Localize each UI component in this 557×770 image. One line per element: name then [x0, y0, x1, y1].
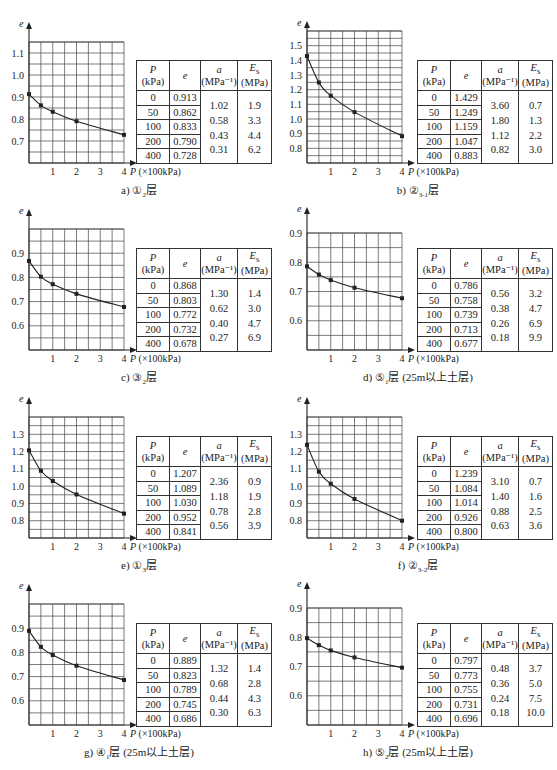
data-point-marker [400, 519, 404, 523]
cell-modulus-list: 1.43.04.76.9 [238, 279, 272, 352]
cell-void-ratio: 0.731 [451, 697, 482, 712]
cell-pressure: 200 [418, 322, 451, 337]
x-tick-label: 3 [376, 166, 381, 177]
y-tick-label: 1.2 [290, 84, 303, 95]
cell-void-ratio: 0.790 [170, 134, 201, 149]
header-void-ratio: e [170, 624, 201, 654]
cell-void-ratio: 1.047 [451, 134, 482, 149]
y-axis-label: e [19, 205, 24, 216]
panel-caption-e: e) ①3层 [49, 556, 229, 574]
cell-compressibility-list: 2.361.180.780.56 [201, 467, 238, 540]
cell-void-ratio: 1.159 [451, 120, 482, 135]
y-tick-label: 1.3 [12, 429, 25, 440]
cell-modulus-list: 1.93.34.46.2 [238, 91, 272, 164]
cell-modulus-list: 1.42.84.36.3 [238, 654, 272, 727]
cell-void-ratio: 1.014 [451, 496, 482, 511]
header-void-ratio: e [170, 249, 201, 279]
y-tick-label: 0.9 [290, 498, 303, 509]
x-tick-label: 1 [328, 166, 333, 177]
x-tick-label: 3 [98, 541, 103, 552]
compression-table-h: P(kPa)ea(MPa⁻¹)Es(MPa)00.7970.480.360.24… [417, 623, 553, 727]
data-point-marker [317, 80, 321, 84]
x-tick-label: 1 [50, 541, 55, 552]
cell-void-ratio: 0.745 [170, 697, 201, 712]
cell-modulus-list: 0.71.62.53.6 [519, 467, 553, 540]
x-tick-label: 3 [98, 353, 103, 364]
cell-compressibility-list: 0.480.360.240.18 [482, 654, 519, 727]
cell-compressibility-list: 0.560.380.260.18 [482, 279, 519, 352]
cell-void-ratio: 0.803 [170, 293, 201, 308]
header-void-ratio: e [451, 249, 482, 279]
y-tick-label: 0.9 [12, 498, 25, 509]
cell-pressure: 100 [418, 308, 451, 323]
data-point-marker [122, 133, 126, 137]
data-point-marker [317, 273, 321, 277]
cell-modulus-list: 3.24.76.99.9 [519, 279, 553, 352]
data-point-marker [353, 110, 357, 114]
header-pressure: P(kPa) [418, 249, 451, 279]
panel-caption-d: d) ⑤1层 (25m以上土层) [328, 368, 508, 386]
cell-pressure: 100 [137, 308, 170, 323]
x-tick-label: 2 [352, 541, 357, 552]
y-tick-label: 0.8 [290, 257, 303, 268]
cell-pressure: 200 [137, 134, 170, 149]
y-tick-label: 1.0 [290, 114, 303, 125]
y-axis-arrow-icon [26, 584, 32, 591]
data-point-marker [51, 282, 55, 286]
cell-pressure: 200 [137, 697, 170, 712]
cell-pressure: 400 [418, 712, 451, 727]
cell-pressure: 100 [137, 496, 170, 511]
panel-caption-f: f) ②3-2层 [328, 556, 508, 574]
y-tick-label: 0.8 [290, 143, 303, 154]
cell-pressure: 100 [418, 496, 451, 511]
cell-void-ratio: 0.739 [451, 308, 482, 323]
y-axis-arrow-icon [26, 22, 32, 29]
cell-pressure: 400 [418, 337, 451, 352]
y-tick-label: 1.4 [290, 55, 303, 66]
x-tick-label: 4 [400, 541, 405, 552]
table-header-row: P(kPa)ea(MPa⁻¹)Es(MPa) [418, 249, 553, 279]
y-tick-label: 0.7 [12, 296, 25, 307]
table-header-row: P(kPa)ea(MPa⁻¹)Es(MPa) [137, 437, 272, 467]
y-tick-label: 0.9 [290, 603, 303, 614]
table-row: 01.2072.361.180.780.560.91.92.83.9 [137, 467, 272, 482]
compression-table-e: P(kPa)ea(MPa⁻¹)Es(MPa)01.2072.361.180.78… [136, 436, 272, 540]
x-tick-label: 2 [352, 166, 357, 177]
cell-void-ratio: 0.800 [451, 525, 482, 540]
data-point-marker [329, 94, 333, 98]
header-pressure: P(kPa) [137, 61, 170, 91]
header-pressure: P(kPa) [137, 624, 170, 654]
header-compression-modulus: Es(MPa) [238, 249, 272, 279]
cell-void-ratio: 0.952 [170, 510, 201, 525]
data-point-marker [27, 448, 31, 452]
cell-pressure: 400 [418, 525, 451, 540]
table-row: 00.8681.300.620.400.271.43.04.76.9 [137, 279, 272, 294]
cell-compressibility-list: 1.020.580.430.31 [201, 91, 238, 164]
data-point-marker [75, 119, 79, 123]
header-void-ratio: e [451, 61, 482, 91]
compression-table-f: P(kPa)ea(MPa⁻¹)Es(MPa)01.2393.101.400.88… [417, 436, 553, 540]
cell-void-ratio: 0.732 [170, 322, 201, 337]
data-point-marker [51, 479, 55, 483]
cell-void-ratio: 0.758 [451, 293, 482, 308]
table-header-row: P(kPa)ea(MPa⁻¹)Es(MPa) [137, 61, 272, 91]
cell-pressure: 400 [418, 149, 451, 164]
header-void-ratio: e [451, 437, 482, 467]
x-tick-label: 4 [400, 166, 405, 177]
data-point-marker [51, 110, 55, 114]
y-tick-label: 0.9 [290, 228, 303, 239]
cell-void-ratio: 0.786 [451, 279, 482, 294]
y-tick-label: 0.6 [12, 320, 25, 331]
y-tick-label: 0.6 [12, 695, 25, 706]
y-tick-label: 0.8 [12, 114, 25, 125]
y-tick-label: 0.9 [12, 92, 25, 103]
cell-void-ratio: 0.883 [451, 149, 482, 164]
cell-pressure: 50 [137, 293, 170, 308]
header-void-ratio: e [451, 624, 482, 654]
table-row: 01.4293.601.801.120.820.71.32.23.0 [418, 91, 553, 106]
header-compression-modulus: Es(MPa) [519, 61, 553, 91]
y-axis-arrow-icon [304, 582, 310, 589]
header-pressure: P(kPa) [418, 624, 451, 654]
cell-pressure: 50 [418, 105, 451, 120]
cell-void-ratio: 0.755 [451, 683, 482, 698]
